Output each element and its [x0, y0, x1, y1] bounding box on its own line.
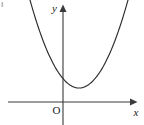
scan-speck — [2, 2, 4, 7]
figure-canvas: y x O — [0, 0, 144, 125]
origin-label: O — [53, 104, 61, 116]
y-axis-arrowhead — [60, 5, 67, 13]
parabola-curve — [30, 0, 128, 88]
y-axis-label: y — [51, 2, 57, 14]
x-axis-label: x — [133, 106, 139, 118]
coordinate-plane-figure: y x O — [0, 0, 144, 125]
x-axis-arrowhead — [130, 98, 138, 105]
